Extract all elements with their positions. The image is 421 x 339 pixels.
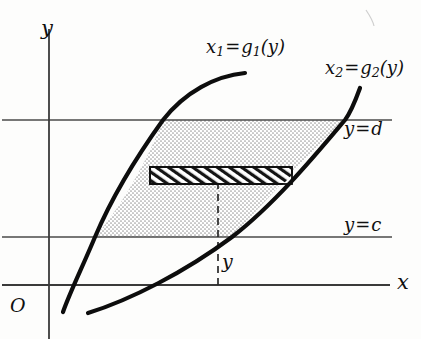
y-axis-label: y (41, 18, 53, 39)
line-d-var: y (344, 118, 354, 139)
curve-x2-label-fn-subscript: 2 (372, 65, 380, 80)
curve-x2-label-fn: g (360, 57, 372, 78)
line-y-equals-d-label: y=d (344, 120, 383, 138)
curve-x1-label-arg: (y) (261, 36, 285, 57)
scan-artifact-mark (366, 10, 374, 26)
dashed-ordinate-label: y (222, 252, 233, 271)
x-axis-label: x (397, 272, 409, 293)
curve-x1-label-fn: g (241, 36, 253, 57)
curve-x2-label-var: x (325, 57, 335, 78)
curve-x2-label-arg: (y) (380, 57, 404, 78)
line-c-value: c (371, 214, 381, 235)
hatched-strip-group (150, 167, 292, 184)
line-d-value: d (371, 118, 383, 139)
line-y-equals-c-label: y=c (344, 216, 381, 234)
line-c-equals: = (354, 214, 371, 235)
curve-x2-label-subscript: 2 (335, 65, 343, 80)
origin-label: O (10, 296, 26, 315)
math-diagram-figure: y x O x1=g1(y) x2=g2(y) y=d y=c y (0, 0, 421, 339)
curve-x2-label: x2=g2(y) (325, 59, 404, 80)
curve-x1-label-var: x (206, 36, 216, 57)
curve-x1-label-subscript: 1 (216, 44, 224, 59)
curve-x1-label-fn-subscript: 1 (253, 44, 261, 59)
curve-x1-label: x1=g1(y) (206, 38, 285, 59)
hatched-strip (150, 167, 292, 184)
line-c-var: y (344, 214, 354, 235)
line-d-equals: = (354, 118, 371, 139)
